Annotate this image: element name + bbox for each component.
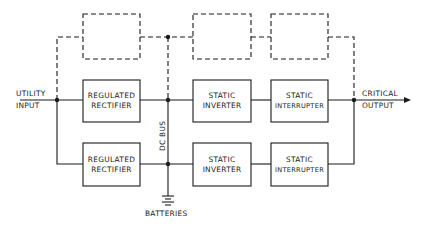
optional-block-1 <box>83 14 140 59</box>
optional-block-3 <box>271 14 328 59</box>
interrupter-1-label: STATIC <box>286 91 313 100</box>
optional-input-line <box>57 37 83 100</box>
critical-output-label-2: OUTPUT <box>362 101 394 110</box>
rectifier-2-label-2: RECTIFIER <box>91 165 132 174</box>
utility-input-label-1: UTILITY <box>16 89 46 98</box>
optional-block-2 <box>193 14 251 59</box>
inverter-1-label-2: INVERTER <box>203 101 242 110</box>
rectifier-1-label: REGULATED <box>88 91 135 100</box>
interrupter-block-1 <box>271 80 328 122</box>
inverter-1-label: STATIC <box>209 91 236 100</box>
interrupter-2-label-2: INTERRUPTER <box>275 166 324 174</box>
rectifier-1-label-2: RECTIFIER <box>91 101 132 110</box>
inverter-2-label: STATIC <box>209 155 236 164</box>
interrupter-block-2 <box>271 143 328 186</box>
output-arrow-icon <box>404 97 411 103</box>
batteries-label: BATTERIES <box>145 209 188 218</box>
interrupter-1-label-2: INTERRUPTER <box>275 102 324 110</box>
interrupter-2-label: STATIC <box>286 155 313 164</box>
rectifier-2-label: REGULATED <box>88 155 135 164</box>
optional-module-row <box>57 14 354 100</box>
optional-output-line <box>328 37 354 100</box>
inverter-2-label-2: INVERTER <box>203 165 242 174</box>
critical-output-label-1: CRITICAL <box>362 89 398 98</box>
ups-block-diagram: UTILITY INPUT CRITICAL OUTPUT DC BUS BAT… <box>0 0 425 226</box>
utility-input-label-2: INPUT <box>16 101 40 110</box>
dc-bus-label: DC BUS <box>158 121 167 151</box>
battery-icon <box>162 196 174 205</box>
